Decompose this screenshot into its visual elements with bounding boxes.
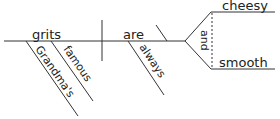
conjunction-word: and [198,30,211,51]
predicate-adjective-1: cheesy [222,0,268,13]
predicate-adjective-2: smooth [219,55,268,70]
subject-word: grits [32,27,61,42]
sentence-diagram: grits are cheesy smooth Grandma's famous… [0,0,280,119]
predicate-slash [156,25,167,41]
diagram-lines: grits are cheesy smooth Grandma's famous… [0,0,280,119]
verb-word: are [123,27,144,42]
